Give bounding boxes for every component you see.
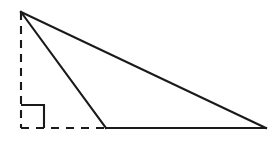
triangle-diagram-svg [0,0,276,141]
geometry-figure-canvas [0,0,276,141]
